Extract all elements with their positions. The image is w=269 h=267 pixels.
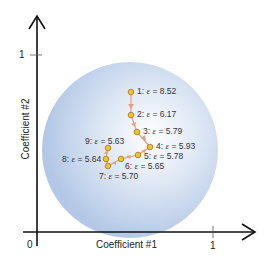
point-label-6: 6: ε = 5.65 — [125, 162, 164, 171]
point-label-7: 7: ε = 5.70 — [99, 172, 138, 181]
point-label-3: 3: ε = 5.79 — [143, 127, 182, 136]
x-axis-tick-label: 1 — [210, 241, 216, 251]
point-3 — [134, 129, 140, 135]
y-axis-label: Coefficient #2 — [21, 89, 31, 169]
point-label-5: 5: ε = 5.78 — [144, 152, 183, 161]
point-1 — [128, 89, 134, 95]
point-6 — [118, 156, 124, 162]
point-label-1: 1: ε = 8.52 — [137, 87, 176, 96]
point-label-9: 9: ε = 5.63 — [85, 137, 124, 146]
point-9 — [105, 145, 111, 151]
x-axis-label: Coefficient #1 — [96, 240, 157, 250]
origin-label: 0 — [27, 240, 33, 250]
point-label-2: 2: ε = 6.17 — [137, 110, 176, 119]
point-8 — [103, 156, 109, 162]
y-axis-tick-label: 1 — [19, 50, 25, 60]
diagram-canvas — [0, 0, 269, 267]
point-label-8: 8: ε = 5.64 — [62, 155, 101, 164]
point-2 — [128, 112, 134, 118]
optimization-path-diagram: 1: ε = 8.52 2: ε = 6.17 3: ε = 5.79 4: ε… — [0, 0, 269, 267]
point-label-4: 4: ε = 5.93 — [156, 142, 195, 151]
point-7 — [105, 163, 111, 169]
point-5 — [135, 152, 141, 158]
point-4 — [147, 144, 153, 150]
